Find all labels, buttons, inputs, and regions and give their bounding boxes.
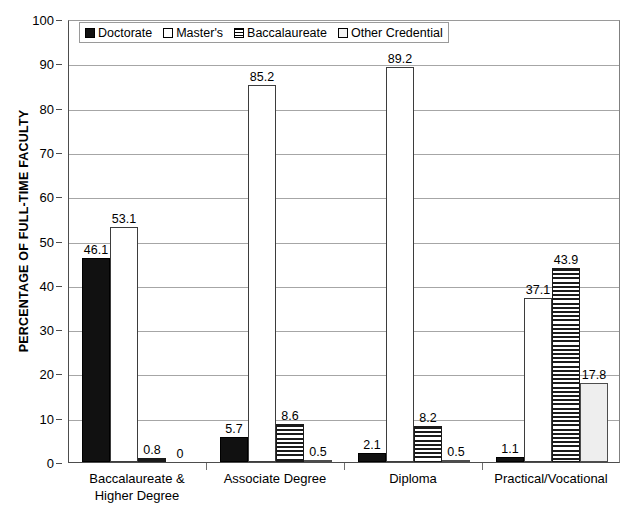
bar-value-label: 0.8 [143, 444, 160, 457]
x-category-label: Baccalaureate & Higher Degree [89, 470, 184, 504]
bar-value-label: 0.5 [309, 446, 326, 459]
x-axis-labels: Baccalaureate & Higher DegreeAssociate D… [68, 470, 620, 514]
y-tick-mark [56, 153, 62, 154]
x-category-label: Associate Degree [224, 470, 327, 487]
gridline [69, 243, 619, 244]
bar-value-label: 1.1 [501, 443, 518, 456]
bar-other-credential [580, 383, 608, 462]
bar-master-s [248, 85, 276, 462]
bar-value-label: 2.1 [363, 439, 380, 452]
bar-doctorate [358, 453, 386, 462]
bar-value-label: 37.1 [526, 284, 550, 297]
legend-label: Doctorate [98, 26, 152, 40]
bar-value-label: 85.2 [250, 71, 274, 84]
legend-swatch-icon [234, 28, 244, 38]
bar-master-s [110, 227, 138, 462]
legend-item: Doctorate [85, 26, 152, 40]
bar-value-label: 46.1 [84, 244, 108, 257]
bar-baccalaureate [138, 458, 166, 462]
y-tick-label: 70 [40, 146, 54, 159]
plot-area: 46.153.10.805.785.28.60.52.189.28.20.51.… [68, 20, 620, 463]
bar-baccalaureate [414, 426, 442, 462]
bar-doctorate [220, 437, 248, 462]
bar-doctorate [82, 258, 110, 462]
y-tick-label: 10 [40, 412, 54, 425]
x-tick-mark [344, 463, 345, 470]
x-category-label: Diploma [389, 470, 437, 487]
y-tick-mark [56, 197, 62, 198]
y-tick-mark [56, 374, 62, 375]
y-tick-mark [56, 286, 62, 287]
bar-value-label: 53.1 [112, 213, 136, 226]
legend-item: Other Credential [338, 26, 443, 40]
bar-value-label: 8.6 [281, 410, 298, 423]
legend-label: Master's [176, 26, 223, 40]
y-tick-mark [56, 330, 62, 331]
bar-baccalaureate [276, 424, 304, 462]
bar-value-label: 0 [177, 448, 184, 461]
x-tick-mark [482, 463, 483, 470]
y-tick-label: 60 [40, 191, 54, 204]
y-tick-label: 0 [47, 457, 54, 470]
bar-other-credential [442, 460, 470, 462]
legend-item: Master's [163, 26, 223, 40]
bar-chart: PERCENTAGE OF FULL-TIME FACULTY 01020304… [0, 0, 633, 514]
y-tick-mark [56, 242, 62, 243]
bar-value-label: 8.2 [419, 412, 436, 425]
y-axis-labels: 0102030405060708090100 [0, 0, 62, 463]
bar-value-label: 17.8 [582, 369, 606, 382]
gridline [69, 154, 619, 155]
bar-value-label: 0.5 [447, 446, 464, 459]
bar-baccalaureate [552, 268, 580, 462]
y-tick-label: 50 [40, 235, 54, 248]
legend-item: Baccalaureate [234, 26, 327, 40]
y-tick-mark [56, 463, 62, 464]
legend-swatch-icon [85, 28, 95, 38]
legend-label: Baccalaureate [247, 26, 327, 40]
bar-value-label: 5.7 [225, 423, 242, 436]
y-tick-label: 30 [40, 324, 54, 337]
chart-legend: DoctorateMaster'sBaccalaureateOther Cred… [79, 22, 449, 43]
y-tick-mark [56, 109, 62, 110]
bar-other-credential [304, 460, 332, 462]
gridline [69, 198, 619, 199]
bar-doctorate [496, 457, 524, 462]
x-category-label: Practical/Vocational [494, 470, 607, 487]
bar-master-s [386, 67, 414, 462]
legend-swatch-icon [163, 28, 173, 38]
legend-swatch-icon [338, 28, 348, 38]
y-tick-mark [56, 419, 62, 420]
gridline [69, 110, 619, 111]
bar-master-s [524, 298, 552, 462]
y-tick-label: 40 [40, 279, 54, 292]
y-tick-label: 90 [40, 58, 54, 71]
bar-value-label: 43.9 [554, 254, 578, 267]
y-tick-label: 20 [40, 368, 54, 381]
y-tick-label: 80 [40, 102, 54, 115]
y-tick-mark [56, 64, 62, 65]
y-tick-mark [56, 20, 62, 21]
gridline [69, 65, 619, 66]
legend-label: Other Credential [351, 26, 443, 40]
bar-value-label: 89.2 [388, 53, 412, 66]
x-tick-mark [206, 463, 207, 470]
y-tick-label: 100 [32, 14, 54, 27]
